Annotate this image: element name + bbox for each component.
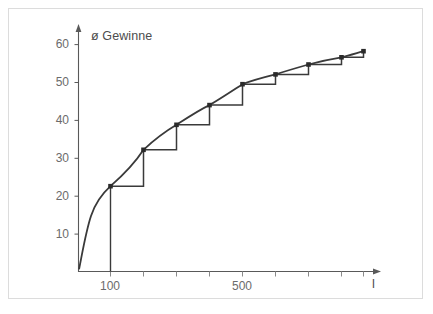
y-tick-label-30: 30: [43, 151, 69, 165]
x-tick-label-500: 500: [220, 279, 264, 293]
x-axis-ticks: [111, 272, 364, 277]
y-axis-title: ø Gewinne: [91, 29, 152, 43]
staircase-step-series: [111, 51, 364, 186]
y-axis-ticks: [75, 45, 79, 235]
data-point-markers: [108, 49, 366, 189]
y-tick-label-40: 40: [43, 113, 69, 127]
y-tick-label-50: 50: [43, 75, 69, 89]
y-tick-label-60: 60: [43, 37, 69, 51]
x-tick-label-100: 100: [88, 279, 132, 293]
y-tick-label-10: 10: [43, 227, 69, 241]
y-axis: [76, 24, 82, 272]
figure-container: ø Gewinne l 60 50 40 30 20 10 100 500: [0, 0, 433, 314]
x-axis: [79, 269, 382, 275]
average-profit-curve: [79, 51, 363, 268]
y-tick-label-20: 20: [43, 189, 69, 203]
x-axis-title: l: [372, 276, 375, 291]
